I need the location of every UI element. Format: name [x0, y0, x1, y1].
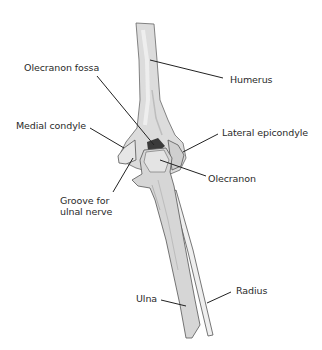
leader-medial-condyle [90, 128, 124, 148]
label-groove-line1: Groove for [60, 195, 109, 206]
label-ulna: Ulna [136, 293, 157, 304]
elbow-anatomy-illustration [0, 0, 322, 350]
leader-radius [207, 292, 231, 303]
leader-lateral-epicondyle [183, 134, 218, 152]
label-radius: Radius [236, 285, 267, 296]
label-lateral-epicondyle: Lateral epicondyle [222, 127, 308, 138]
label-olecranon: Olecranon [208, 173, 256, 184]
label-humerus: Humerus [230, 74, 272, 85]
label-olecranon-fossa: Olecranon fossa [24, 62, 99, 73]
leader-humerus [150, 60, 223, 78]
label-groove-line2: ulnal nerve [60, 206, 112, 217]
label-medial-condyle: Medial condyle [16, 120, 86, 131]
